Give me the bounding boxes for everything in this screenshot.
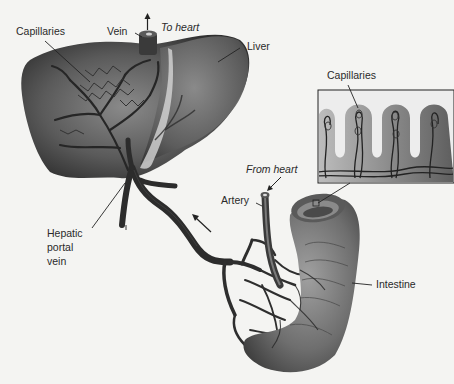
label-vein: Vein bbox=[107, 25, 127, 37]
illustration bbox=[0, 0, 454, 384]
intestinal-villi-inset bbox=[318, 90, 454, 183]
intestine bbox=[244, 190, 360, 372]
label-artery: Artery bbox=[221, 194, 249, 206]
label-capillaries-liver: Capillaries bbox=[16, 25, 65, 37]
label-from-heart: From heart bbox=[246, 163, 297, 175]
label-to-heart: To heart bbox=[161, 21, 199, 33]
portal-flow-arrow bbox=[192, 214, 211, 232]
leader-artery bbox=[256, 203, 262, 206]
hepatic-vein bbox=[139, 31, 157, 56]
label-liver: Liver bbox=[247, 40, 270, 52]
hepatic-portal-diagram: Capillaries Vein To heart Liver Capillar… bbox=[0, 0, 454, 384]
liver bbox=[21, 35, 249, 178]
to-heart-arrow bbox=[145, 13, 151, 30]
from-heart-arrow bbox=[267, 177, 281, 191]
label-hepatic-portal-vein: Hepatic portal vein bbox=[47, 226, 83, 268]
label-intestine: Intestine bbox=[376, 278, 416, 290]
label-capillaries-inset: Capillaries bbox=[327, 69, 376, 81]
